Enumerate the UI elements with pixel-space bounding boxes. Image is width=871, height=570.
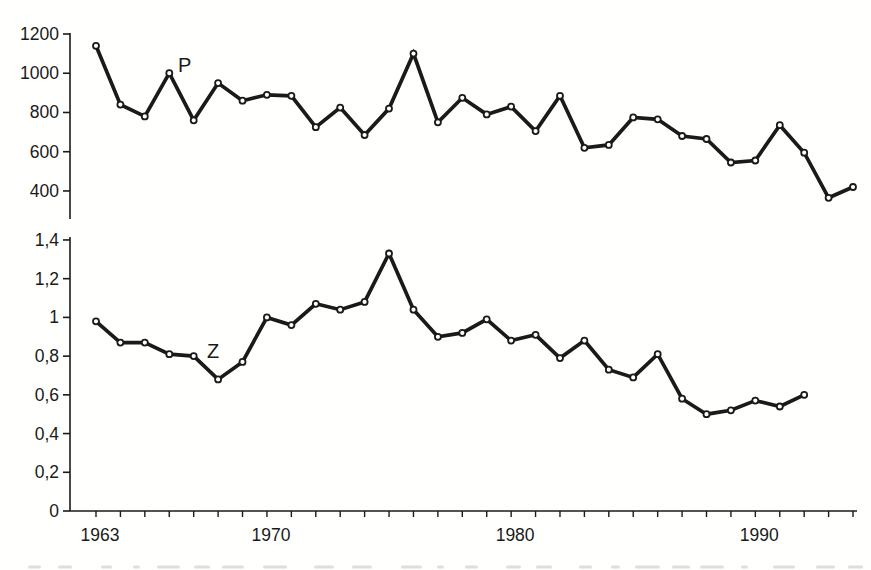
z-series-point-marker [142,340,148,346]
p-series-point-marker [533,128,539,134]
chart-canvas: 4006008001000120000,20,40,60,811,21,4196… [0,0,871,570]
scan-artifact-mark [314,566,334,569]
y-axis-tick-label: 800 [30,102,59,122]
z-series-point-marker [386,251,392,257]
scan-artifact-mark [133,566,140,569]
p-series-point-marker [606,142,612,148]
y-axis-tick-label: 1200 [20,24,59,44]
p-series-point-marker [801,150,807,156]
z-series-line [96,254,804,415]
p-series-point-marker [752,158,758,164]
p-series-point-marker [117,102,123,108]
y-axis-tick-label: 0,2 [35,462,59,482]
z-series-point-marker [215,376,221,382]
scan-artifact-mark [401,566,422,569]
z-series-point-marker [264,314,270,320]
scan-artifact-mark [741,566,748,569]
z-series-point-marker [337,307,343,313]
z-series-point-marker [459,330,465,336]
scanned-line-chart-figure: 4006008001000120000,20,40,60,811,21,4196… [0,0,871,570]
p-series-point-marker [581,145,587,151]
x-axis: 1963197019801990 [70,511,857,545]
p-series-point-marker [313,124,319,130]
y-axis-tick-label: 0 [49,501,59,521]
p-series-point-marker [655,116,661,122]
p-series-point-marker [557,93,563,99]
z-series-point-marker [93,318,99,324]
scan-artifact-mark [263,566,287,569]
z-series-point-marker [117,340,123,346]
scan-artifact-mark [672,566,690,569]
y-axis-tick-label: 0,8 [35,346,59,366]
p-series-point-marker [142,113,148,119]
z-series-point-marker [484,316,490,322]
z-series-point-marker [166,351,172,357]
scan-artifact-mark [635,566,660,569]
scan-artifact-mark [465,566,478,569]
p-series-point-marker [508,104,514,110]
y-axis-tick-label: 1,4 [35,230,60,250]
p-series-point-marker [166,70,172,76]
z-series-point-marker [801,392,807,398]
z-series-point-marker [508,338,514,344]
z-series: Z [93,251,807,418]
scan-artifact-mark [773,566,795,569]
z-series-point-marker [752,398,758,404]
z-series-point-marker [288,322,294,328]
p-series-point-marker [435,119,441,125]
x-axis-tick-label: 1963 [81,525,120,545]
y-axis-tick-label: 600 [30,142,59,162]
z-series-label: Z [207,340,219,362]
p-series-point-marker [240,98,246,104]
z-series-point-marker [655,351,661,357]
p-series-point-marker [777,122,783,128]
y-axis-tick-label: 1 [49,307,59,327]
p-series-point-marker [288,93,294,99]
scan-artifact-mark [506,566,521,569]
z-series-point-marker [679,396,685,402]
p-series-point-marker [93,43,99,49]
p-series-point-marker [215,80,221,86]
y-axis-tick-label: 1,2 [35,269,59,289]
p-series-point-marker [704,136,710,142]
p-series-point-marker [728,160,734,166]
z-series-point-marker [777,404,783,410]
scan-artifact-mark [536,566,552,569]
p-series-point-marker [826,195,832,201]
p-series-point-marker [337,105,343,111]
p-series-point-marker [191,117,197,123]
y-axis-tick-label: 400 [30,181,59,201]
z-series-point-marker [557,355,563,361]
y-axis-tick-label: 0,4 [35,424,60,444]
scan-artifact-mark [700,566,724,569]
scan-artifact-mark [352,566,372,569]
z-series-point-marker [728,407,734,413]
p-panel-y-axis: 40060080010001200 [20,24,70,219]
x-axis-tick-label: 1970 [251,525,290,545]
scan-artifact-mark [611,566,620,569]
line-chart-svg: 4006008001000120000,20,40,60,811,21,4196… [0,0,871,570]
scan-artifact-mark [579,566,592,569]
p-series-point-marker [411,51,417,57]
p-series-point-marker [362,132,368,138]
z-series-point-marker [435,334,441,340]
scan-artifact-mark [101,566,112,569]
scan-artifact-mark [437,566,444,569]
z-series-point-marker [606,367,612,373]
scan-artifact-mark [28,566,41,569]
p-series-point-marker [679,133,685,139]
scan-artifact-mark [194,566,210,569]
scan-artifact-mark [848,566,863,569]
z-series-point-marker [630,374,636,380]
scan-artifact-mark [58,566,72,569]
z-series-point-marker [581,338,587,344]
p-series-point-marker [484,111,490,117]
scan-artifact-mark [157,566,180,569]
p-series-point-marker [850,184,856,190]
z-series-point-marker [362,299,368,305]
z-panel-y-axis: 00,20,40,60,811,21,4 [35,230,70,521]
x-axis-tick-label: 1980 [496,525,535,545]
p-series-point-marker [459,95,465,101]
p-series-line [96,46,853,198]
z-series-point-marker [704,411,710,417]
